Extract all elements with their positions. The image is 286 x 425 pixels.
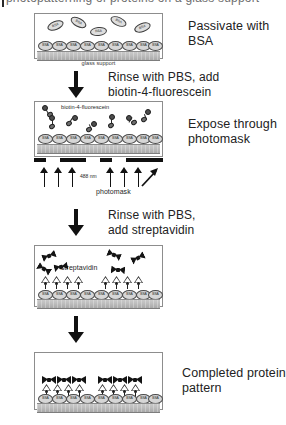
bsa-molecule-bound: BSA <box>108 134 123 144</box>
step-1-side-label: Passivate with BSA <box>188 19 286 49</box>
excitation-arrow <box>40 167 49 187</box>
bsa-molecule-bound: BSA <box>148 41 163 51</box>
illumination-region: 488 nm photomask <box>34 163 163 203</box>
bsa-molecule-bound: BSA <box>52 41 67 51</box>
streptavidin-molecule-bound <box>42 376 56 384</box>
bound-biotin <box>101 276 110 289</box>
streptavidin-molecule-bound <box>113 376 127 384</box>
margin-tick <box>2 0 4 7</box>
step-2-panel-inner: biotin-4-fluorescein <box>35 102 162 156</box>
bsa-molecule-bound: BSA <box>108 41 123 51</box>
streptavidin-molecule-bound <box>98 376 112 384</box>
cropped-title-text: photopatterning of proteins on a glass s… <box>6 0 259 5</box>
wavelength-label: 488 nm <box>80 174 97 179</box>
bsa-molecule-bound: BSA <box>80 134 95 144</box>
glass-support-substrate <box>37 144 160 154</box>
step-4-panel-inner: BSA BSA BSA BSA BSA BSA BSA BSA BSA <box>35 353 162 409</box>
streptavidin-molecule-bound <box>57 376 71 384</box>
bsa-molecule-bound: BSA <box>66 134 81 144</box>
glass-support-substrate <box>37 299 160 309</box>
step-1-panel: BSA BSA BSA BSA BSA BSA BSA BSA BSA BSA … <box>34 13 163 59</box>
excitation-arrow <box>106 167 115 187</box>
bsa-molecule-bound: BSA <box>38 134 53 144</box>
bsa-molecule-bound: BSA <box>38 41 53 51</box>
biotin-fluorescein-label: biotin-4-fluorescein <box>61 105 109 111</box>
streptavidin-molecule-bound <box>128 376 142 384</box>
bound-biotin <box>112 276 121 289</box>
step-2-panel: biotin-4-fluorescein <box>34 101 163 157</box>
biotin-fluorescein-molecule <box>106 114 120 128</box>
streptavidin-molecule-free <box>111 266 126 275</box>
bound-biotin <box>63 276 72 289</box>
bsa-molecule-bound: BSA <box>122 41 137 51</box>
glass-support-substrate <box>37 403 160 413</box>
bsa-molecule-free: BSA <box>90 26 108 37</box>
biotin-fluorescein-molecule <box>141 109 155 123</box>
transition-1-arrow <box>68 71 84 98</box>
transition-2-arrow <box>68 209 84 236</box>
bound-biotin <box>41 276 50 289</box>
bsa-molecule-bound: BSA <box>122 134 137 144</box>
excitation-arrow <box>120 167 129 187</box>
biotin-fluorescein-molecule <box>86 119 100 133</box>
transition-2-label: Rinse with PBS, add streptavidin <box>108 208 196 237</box>
photomask-bar <box>34 158 163 162</box>
biotin-fluorescein-molecule <box>47 115 61 129</box>
bsa-molecule-bound: BSA <box>52 134 67 144</box>
streptavidin-molecule-free <box>106 249 122 262</box>
bsa-molecule-free: BSA <box>69 15 88 31</box>
bound-biotin <box>134 276 143 289</box>
streptavidin-molecule-free <box>130 251 146 264</box>
step-3-panel-inner: streptavidin BSA B <box>35 246 162 306</box>
bound-biotin <box>52 276 61 289</box>
step-1-panel-inner: BSA BSA BSA BSA BSA BSA BSA BSA BSA BSA … <box>35 14 162 58</box>
photomask-pointer-arrow <box>140 167 160 187</box>
streptavidin-molecule-bound <box>72 376 86 384</box>
bsa-molecule-free: BSA <box>109 14 128 29</box>
bsa-molecule-free: BSA <box>46 18 65 33</box>
biotin-fluorescein-molecule <box>125 113 139 127</box>
bsa-molecule-bound: BSA <box>94 41 109 51</box>
bsa-molecule-bound: BSA <box>94 134 109 144</box>
bsa-molecule-free: BSA <box>133 20 152 34</box>
excitation-arrow <box>54 167 63 187</box>
bsa-molecule-bound: BSA <box>66 41 81 51</box>
cropped-title-sliver: photopatterning of proteins on a glass s… <box>0 0 286 7</box>
step-2-side-label: Expose through photomask <box>188 117 277 147</box>
bound-biotin <box>123 276 132 289</box>
excitation-arrow <box>68 167 77 187</box>
biotin-fluorescein-molecule <box>66 114 80 128</box>
glass-support-caption: glass support <box>34 61 163 67</box>
photomask-label: photomask <box>96 188 131 195</box>
transition-1-label: Rinse with PBS, add biotin-4-fluorescein <box>108 70 219 99</box>
figure-canvas: photopatterning of proteins on a glass s… <box>0 0 286 425</box>
step-4-panel: BSA BSA BSA BSA BSA BSA BSA BSA BSA <box>34 352 163 410</box>
bsa-molecule-bound: BSA <box>80 41 95 51</box>
transition-3-arrow <box>68 316 84 343</box>
streptavidin-molecule-free <box>41 250 57 262</box>
streptavidin-molecule-free <box>36 262 52 276</box>
step-4-side-label: Completed protein pattern <box>182 366 286 396</box>
bsa-molecule-bound: BSA <box>148 134 163 144</box>
step-3-panel: streptavidin BSA B <box>34 245 163 307</box>
bound-biotin <box>74 276 83 289</box>
